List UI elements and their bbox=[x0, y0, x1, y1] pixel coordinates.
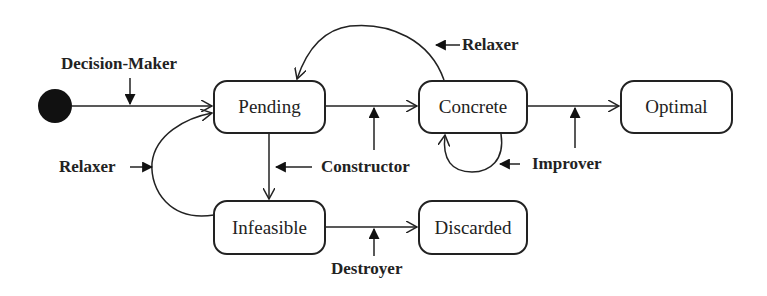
label-destroyer: Destroyer bbox=[331, 259, 402, 279]
label-constructor: Constructor bbox=[321, 157, 410, 177]
label-decision-maker: Decision-Maker bbox=[61, 54, 177, 74]
state-label: Infeasible bbox=[232, 217, 307, 239]
state-label: Optimal bbox=[645, 96, 707, 118]
state-pending: Pending bbox=[213, 80, 326, 134]
state-label: Concrete bbox=[439, 96, 508, 118]
transition-concrete-pending bbox=[297, 25, 444, 80]
state-label: Discarded bbox=[434, 217, 511, 239]
transition-concrete-self bbox=[444, 134, 501, 172]
diagram-canvas bbox=[0, 0, 767, 296]
state-concrete: Concrete bbox=[418, 80, 528, 134]
label-improver: Improver bbox=[532, 154, 602, 174]
label-relaxer-top: Relaxer bbox=[462, 35, 519, 55]
state-discarded: Discarded bbox=[418, 200, 528, 255]
state-infeasible: Infeasible bbox=[213, 200, 326, 255]
state-optimal: Optimal bbox=[620, 80, 733, 134]
label-relaxer-left: Relaxer bbox=[59, 157, 116, 177]
state-label: Pending bbox=[238, 96, 300, 118]
transition-infeasible-pending bbox=[152, 113, 214, 216]
initial-state-dot bbox=[38, 89, 72, 123]
